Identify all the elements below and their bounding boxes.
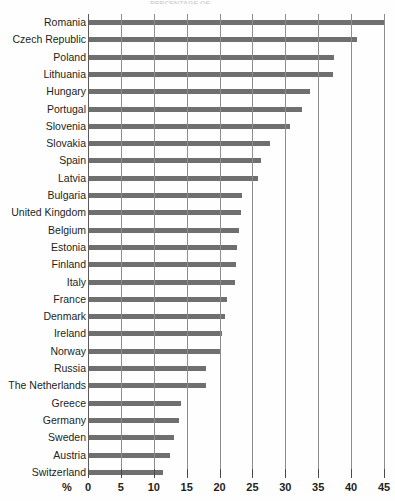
gridline-40: [351, 14, 352, 469]
bar-ireland: [88, 331, 222, 336]
category-label-germany: Germany: [43, 412, 86, 429]
gridline-45: [384, 14, 385, 469]
x-tick-5: [121, 469, 122, 478]
bar-czech-republic: [88, 37, 357, 42]
bar-estonia: [88, 245, 237, 250]
x-tick-label-40: 40: [345, 480, 357, 494]
x-axis-tick-labels: 051015202530354045: [0, 480, 395, 496]
category-label-romania: Romania: [44, 14, 86, 31]
bar-united-kingdom: [88, 210, 241, 215]
category-label-ireland: Ireland: [54, 325, 86, 342]
category-label-finland: Finland: [52, 256, 86, 273]
gridline-0: [88, 14, 89, 469]
bar-belgium: [88, 228, 239, 233]
bar-denmark: [88, 314, 225, 319]
category-label-poland: Poland: [53, 49, 86, 66]
category-label-sweden: Sweden: [48, 429, 86, 446]
chart-title-cutoff: PERCENTAGE OF: [150, 0, 350, 4]
x-tick-10: [154, 469, 155, 478]
x-tick-0: [88, 469, 89, 478]
bar-row: [88, 49, 384, 66]
bar-row: [88, 412, 384, 429]
bar-chart: PERCENTAGE OF RomaniaCzech RepublicPolan…: [0, 0, 395, 501]
category-label-lithuania: Lithuania: [43, 66, 86, 83]
x-tick-30: [285, 469, 286, 478]
gridline-15: [187, 14, 188, 469]
x-tick-label-35: 35: [312, 480, 324, 494]
category-label-portugal: Portugal: [47, 101, 86, 118]
bar-row: [88, 325, 384, 342]
gridline-25: [252, 14, 253, 469]
bar-germany: [88, 418, 179, 423]
bar-row: [88, 83, 384, 100]
bar-row: [88, 170, 384, 187]
bar-slovenia: [88, 124, 290, 129]
bar-row: [88, 429, 384, 446]
category-label-spain: Spain: [59, 152, 86, 169]
bar-row: [88, 187, 384, 204]
category-label-norway: Norway: [50, 343, 86, 360]
bar-poland: [88, 55, 334, 60]
category-label-belgium: Belgium: [48, 222, 86, 239]
bar-row: [88, 360, 384, 377]
category-label-russia: Russia: [54, 360, 86, 377]
category-label-czech-republic: Czech Republic: [12, 31, 86, 48]
category-label-the-netherlands: The Netherlands: [8, 377, 86, 394]
x-tick-label-10: 10: [148, 480, 160, 494]
bar-row: [88, 464, 384, 481]
bar-row: [88, 152, 384, 169]
bar-row: [88, 447, 384, 464]
category-label-austria: Austria: [53, 447, 86, 464]
x-tick-40: [351, 469, 352, 478]
bar-italy: [88, 280, 235, 285]
x-tick-35: [318, 469, 319, 478]
bar-row: [88, 395, 384, 412]
bar-row: [88, 239, 384, 256]
gridline-30: [285, 14, 286, 469]
bar-sweden: [88, 435, 174, 440]
x-tick-label-45: 45: [378, 480, 390, 494]
x-tick-label-20: 20: [213, 480, 225, 494]
x-tick-label-30: 30: [279, 480, 291, 494]
category-label-switzerland: Switzerland: [32, 464, 86, 481]
bar-greece: [88, 401, 181, 406]
bar-finland: [88, 262, 236, 267]
bar-romania: [88, 20, 384, 25]
category-label-denmark: Denmark: [43, 308, 86, 325]
bar-row: [88, 204, 384, 221]
bar-row: [88, 308, 384, 325]
gridline-5: [121, 14, 122, 469]
bar-row: [88, 222, 384, 239]
bar-row: [88, 377, 384, 394]
category-label-estonia: Estonia: [51, 239, 86, 256]
x-tick-label-15: 15: [181, 480, 193, 494]
category-label-france: France: [53, 291, 86, 308]
x-tick-45: [384, 469, 385, 478]
category-label-hungary: Hungary: [46, 83, 86, 100]
gridline-10: [154, 14, 155, 469]
bar-row: [88, 31, 384, 48]
bar-switzerland: [88, 470, 163, 475]
x-tick-label-0: 0: [85, 480, 91, 494]
category-label-greece: Greece: [52, 395, 86, 412]
bar-row: [88, 118, 384, 135]
gridline-35: [318, 14, 319, 469]
category-label-slovakia: Slovakia: [46, 135, 86, 152]
bar-the-netherlands: [88, 383, 206, 388]
category-label-united-kingdom: United Kingdom: [11, 204, 86, 221]
gridline-20: [220, 14, 221, 469]
bar-russia: [88, 366, 206, 371]
bar-slovakia: [88, 141, 270, 146]
x-tick-25: [252, 469, 253, 478]
category-label-italy: Italy: [67, 274, 86, 291]
bar-row: [88, 14, 384, 31]
bar-latvia: [88, 176, 258, 181]
x-tick-20: [220, 469, 221, 478]
bar-lithuania: [88, 72, 333, 77]
bar-row: [88, 274, 384, 291]
plot-area: [88, 14, 384, 469]
bar-row: [88, 101, 384, 118]
bar-row: [88, 256, 384, 273]
x-tick-label-5: 5: [118, 480, 124, 494]
x-tick-label-25: 25: [246, 480, 258, 494]
